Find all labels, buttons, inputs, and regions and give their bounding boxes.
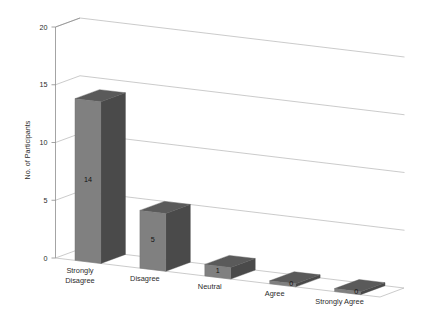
y-axis-title: No. of Participants	[23, 120, 32, 179]
y-tick-label-10: 10	[40, 138, 48, 147]
y-tick-label-15: 15	[40, 80, 48, 89]
category-label-disagree: Disagree	[130, 274, 160, 283]
bar-side-face	[166, 205, 191, 272]
bar-data-label: 1	[216, 266, 220, 275]
bar-strongly-disagree[interactable]	[75, 90, 125, 264]
bar-data-label: 0	[354, 287, 358, 296]
category-label-neutral: Neutral	[198, 282, 222, 291]
bar-chart-3d: 20151050 No. of Participants 145100 Stro…	[0, 0, 422, 323]
y-tick-label-20: 20	[40, 23, 48, 32]
chart-container: 20151050 No. of Participants 145100 Stro…	[0, 0, 422, 323]
bar-data-label: 0	[289, 279, 293, 288]
bar-disagree[interactable]	[140, 201, 190, 271]
y-tick-label-0: 0	[44, 254, 48, 263]
bar-side-face	[101, 93, 126, 264]
category-label-strongly-disagree: Strongly	[66, 266, 93, 275]
category-label-agree: Agree	[265, 289, 285, 298]
category-label-strongly-agree: Strongly Agree	[315, 297, 363, 306]
bar-data-label: 5	[151, 235, 155, 244]
category-label-line2: Disagree	[65, 276, 95, 285]
bar-data-label: 14	[84, 175, 92, 184]
y-tick-label-5: 5	[44, 196, 48, 205]
